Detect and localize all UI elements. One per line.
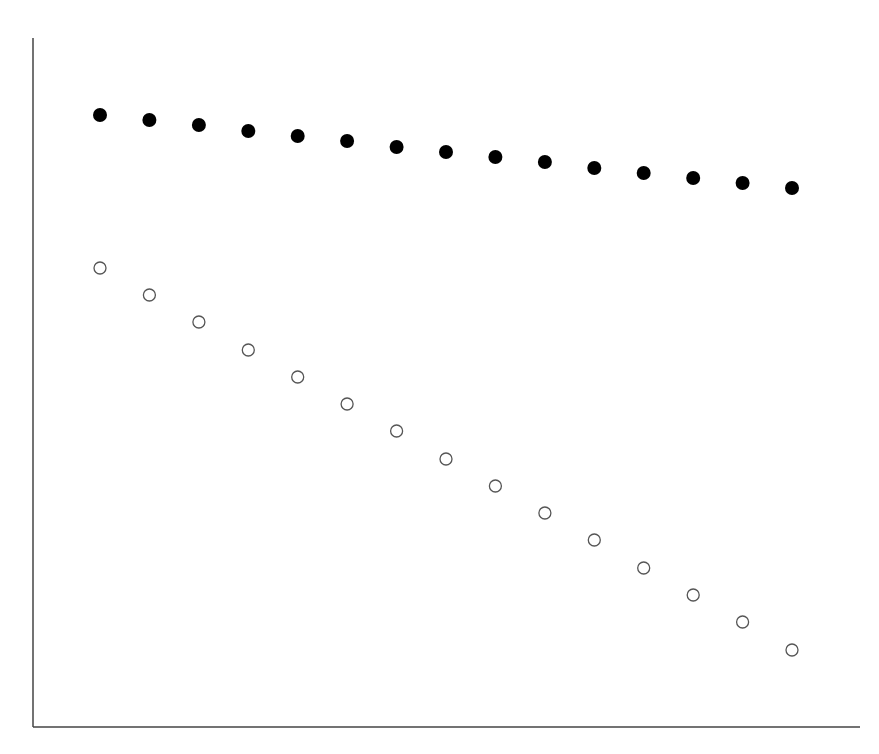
data-point [241,124,255,138]
scatter-chart [0,0,879,754]
series-open-points [94,262,798,656]
data-point [785,181,799,195]
data-point [440,453,452,465]
data-point [340,134,354,148]
data-point [242,344,254,356]
data-point [390,140,404,154]
data-point [736,176,750,190]
data-point [291,129,305,143]
data-point [439,145,453,159]
data-point [637,166,651,180]
data-point [93,108,107,122]
data-point [292,371,304,383]
data-point [538,155,552,169]
data-point [737,616,749,628]
data-point [193,316,205,328]
data-point [94,262,106,274]
series-filled-points [93,108,799,195]
data-point [786,644,798,656]
data-point [391,425,403,437]
data-point [686,171,700,185]
data-point [638,562,650,574]
data-point [341,398,353,410]
data-point [539,507,551,519]
data-point [588,534,600,546]
data-point [687,589,699,601]
data-point [489,480,501,492]
data-point [143,289,155,301]
data-point [587,161,601,175]
data-point [192,118,206,132]
data-point [142,113,156,127]
data-point [488,150,502,164]
